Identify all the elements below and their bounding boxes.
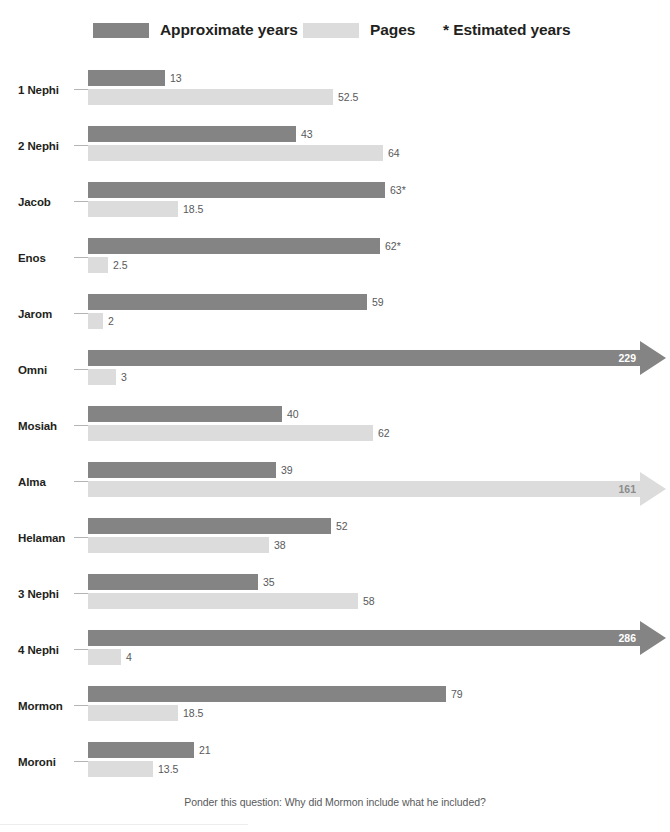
axis-tick xyxy=(74,705,88,706)
bar-pages: 38 xyxy=(88,537,286,553)
bar-fill-years xyxy=(88,70,165,86)
bar-value-label-pages: 161 xyxy=(618,481,636,497)
axis-tick xyxy=(74,369,88,370)
bar-value-label-years: 229 xyxy=(618,350,636,366)
bar-fill-pages xyxy=(88,257,108,273)
row-label: 1 Nephi xyxy=(18,62,59,118)
bar-arrowhead-icon xyxy=(640,621,666,655)
row-label: Enos xyxy=(18,230,46,286)
bar-fill-pages xyxy=(88,593,358,609)
bar-pages: 52.5 xyxy=(88,89,358,105)
bar-fill-years xyxy=(88,742,194,758)
bar-years: 229 xyxy=(88,350,666,366)
bar-pages: 161 xyxy=(88,481,666,497)
chart-row: Jacob63*18.5 xyxy=(0,174,670,230)
row-bars: 2113.5 xyxy=(88,734,670,790)
bar-years: 13 xyxy=(88,70,182,86)
axis-tick xyxy=(74,425,88,426)
bar-years: 79 xyxy=(88,686,463,702)
top-caption-strip xyxy=(0,0,670,8)
row-label: Moroni xyxy=(18,734,56,790)
row-label: Helaman xyxy=(18,510,65,566)
bar-fill-years xyxy=(88,182,385,198)
bar-value-label-years: 35 xyxy=(263,574,275,590)
row-bars: 39161 xyxy=(88,454,670,510)
bar-pages: 64 xyxy=(88,145,400,161)
bar-value-label-pages: 4 xyxy=(126,649,132,665)
footer-caption: Ponder this question: Why did Mormon inc… xyxy=(0,796,670,808)
row-label: Omni xyxy=(18,342,47,398)
row-bars: 2293 xyxy=(88,342,670,398)
chart-row: Mormon7918.5 xyxy=(0,678,670,734)
bar-value-label-years: 43 xyxy=(301,126,313,142)
bar-fill-pages xyxy=(88,761,153,777)
bar-chart: 1 Nephi1352.52 Nephi4364Jacob63*18.5Enos… xyxy=(0,62,670,790)
bar-arrowhead-icon xyxy=(640,472,666,506)
bar-value-label-years: 40 xyxy=(287,406,299,422)
chart-row: Mosiah4062 xyxy=(0,398,670,454)
bar-value-label-years: 13 xyxy=(170,70,182,86)
bar-value-label-pages: 58 xyxy=(363,593,375,609)
legend-swatch-icon-years xyxy=(93,23,149,38)
bar-value-label-pages: 64 xyxy=(388,145,400,161)
bar-pages: 58 xyxy=(88,593,375,609)
bar-value-label-years: 63* xyxy=(390,182,406,198)
bar-fill-pages xyxy=(88,537,269,553)
row-label: Mosiah xyxy=(18,398,57,454)
bar-fill-pages xyxy=(88,705,178,721)
legend-label-years: Approximate years xyxy=(160,21,298,39)
row-label: 2 Nephi xyxy=(18,118,59,174)
bar-pages: 62 xyxy=(88,425,390,441)
chart-legend: Approximate years Pages * Estimated year… xyxy=(0,18,670,42)
chart-row: Helaman5238 xyxy=(0,510,670,566)
chart-row: Jarom592 xyxy=(0,286,670,342)
bar-fill-years xyxy=(88,462,276,478)
row-label: Jacob xyxy=(18,174,51,230)
axis-tick xyxy=(74,481,88,482)
bar-pages: 4 xyxy=(88,649,132,665)
bar-years: 59 xyxy=(88,294,384,310)
row-bars: 1352.5 xyxy=(88,62,670,118)
bar-value-label-pages: 18.5 xyxy=(183,705,203,721)
bar-pages: 2 xyxy=(88,313,114,329)
bar-fill-years xyxy=(88,126,296,142)
axis-tick xyxy=(74,89,88,90)
bar-arrowhead-icon xyxy=(640,341,666,375)
bar-years: 39 xyxy=(88,462,293,478)
chart-row: Moroni2113.5 xyxy=(0,734,670,790)
bar-value-label-pages: 18.5 xyxy=(183,201,203,217)
chart-row: 1 Nephi1352.5 xyxy=(0,62,670,118)
axis-tick xyxy=(74,649,88,650)
bar-value-label-years: 59 xyxy=(372,294,384,310)
row-bars: 4062 xyxy=(88,398,670,454)
bar-fill-years xyxy=(88,406,282,422)
bar-years: 21 xyxy=(88,742,211,758)
bar-value-label-years: 39 xyxy=(281,462,293,478)
legend-item-estimated-note: * Estimated years xyxy=(443,18,571,42)
row-bars: 63*18.5 xyxy=(88,174,670,230)
bar-years: 286 xyxy=(88,630,666,646)
row-bars: 5238 xyxy=(88,510,670,566)
bar-value-label-years: 286 xyxy=(618,630,636,646)
legend-swatch-icon-pages xyxy=(303,23,359,38)
row-bars: 3558 xyxy=(88,566,670,622)
bar-value-label-years: 52 xyxy=(336,518,348,534)
row-bars: 4364 xyxy=(88,118,670,174)
bar-years: 43 xyxy=(88,126,313,142)
bar-fill-pages xyxy=(88,201,178,217)
bar-fill-years xyxy=(88,518,331,534)
bar-fill-pages xyxy=(88,369,116,385)
legend-item-approximate-years: Approximate years xyxy=(93,18,298,42)
bar-fill-years xyxy=(88,238,380,254)
bar-fill-years xyxy=(88,350,640,366)
bar-fill-pages xyxy=(88,425,373,441)
bar-fill-pages xyxy=(88,481,640,497)
row-bars: 62*2.5 xyxy=(88,230,670,286)
row-label: Alma xyxy=(18,454,46,510)
legend-label-estimated-note: * Estimated years xyxy=(443,21,571,39)
bar-value-label-years: 21 xyxy=(199,742,211,758)
row-bars: 592 xyxy=(88,286,670,342)
chart-row: Alma39161 xyxy=(0,454,670,510)
bar-value-label-pages: 62 xyxy=(378,425,390,441)
bar-years: 35 xyxy=(88,574,275,590)
